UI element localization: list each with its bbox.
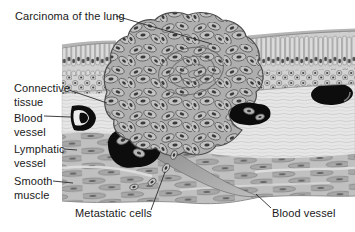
label-metastatic-cells: Metastatic cells bbox=[75, 207, 152, 221]
label-smooth-muscle: Smooth muscle bbox=[14, 175, 70, 202]
epithelium-right bbox=[248, 30, 355, 91]
tumor-mass bbox=[104, 12, 263, 155]
invaded-vessel-cavity bbox=[230, 102, 271, 125]
lung-carcinoma-figure: Carcinoma of the lung Connective tissue … bbox=[0, 0, 355, 232]
label-lymphatic-vessel: Lymphatic vessel bbox=[14, 143, 80, 170]
label-blood-vessel-bottom: Blood vessel bbox=[272, 207, 336, 221]
label-carcinoma: Carcinoma of the lung bbox=[15, 10, 125, 24]
label-connective-tissue: Connective tissue bbox=[14, 82, 80, 109]
label-blood-vessel-left: Blood vessel bbox=[14, 112, 62, 139]
